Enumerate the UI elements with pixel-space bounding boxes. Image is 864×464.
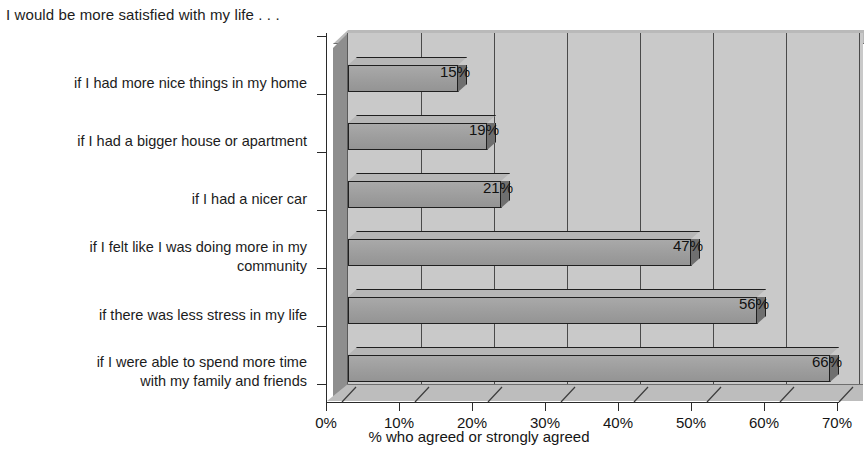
gridline: [640, 33, 641, 385]
x-axis-tick: [618, 403, 619, 411]
category-label: if I had a bigger house or apartment: [7, 132, 307, 151]
bar: [348, 239, 691, 266]
plot-area: [318, 30, 864, 402]
x-axis-title: % who agreed or strongly agreed: [0, 428, 864, 445]
bar-top-face: [348, 347, 839, 355]
y-axis-tick: [317, 152, 326, 153]
gridline: [494, 33, 495, 385]
category-label: if I were able to spend more time with m…: [7, 353, 307, 391]
x-axis-tick: [399, 403, 400, 411]
bar-value-label: 21%: [483, 179, 513, 196]
category-label: if I had more nice things in my home: [7, 74, 307, 93]
chart-title: I would be more satisfied with my life .…: [6, 6, 280, 23]
plot-left-wall: [333, 33, 348, 397]
bar: [348, 355, 830, 382]
x-axis: 0% 10% 20% 30% 40% 50% 60% 70%: [326, 402, 839, 403]
bar-chart: I would be more satisfied with my life .…: [0, 0, 864, 464]
category-label: if there was less stress in my life: [7, 306, 307, 325]
bar-top-face: [348, 231, 700, 239]
category-label: if I had a nicer car: [7, 190, 307, 209]
category-axis-labels: if I had more nice things in my home if …: [0, 33, 307, 398]
bar-top-face: [348, 289, 766, 297]
gridline: [713, 33, 714, 385]
x-axis-tick: [837, 403, 838, 411]
bar-value-label: 19%: [469, 121, 499, 138]
category-label: if I felt like I was doing more in my co…: [7, 238, 307, 276]
x-axis-tick: [545, 403, 546, 411]
bar-value-label: 47%: [673, 237, 703, 254]
x-axis-tick: [691, 403, 692, 411]
y-axis-tick: [317, 210, 326, 211]
gridline: [859, 33, 860, 385]
bar: [348, 181, 501, 208]
bar: [348, 123, 487, 150]
bar-value-label: 66%: [812, 353, 842, 370]
bar-value-label: 56%: [739, 295, 769, 312]
plot-back-wall: [347, 33, 863, 385]
x-axis-tick: [326, 403, 327, 411]
y-axis-tick: [317, 384, 326, 385]
x-axis-tick: [472, 403, 473, 411]
y-axis-tick: [317, 94, 326, 95]
gridline: [786, 33, 787, 385]
y-axis: [326, 33, 327, 403]
x-axis-tick: [764, 403, 765, 411]
bar: [348, 297, 757, 324]
y-axis-tick: [317, 268, 326, 269]
x-axis-title-text: % who agreed or strongly agreed: [369, 428, 590, 445]
y-axis-tick: [317, 36, 326, 37]
y-axis-tick: [317, 326, 326, 327]
gridline: [567, 33, 568, 385]
bar-value-label: 15%: [440, 63, 470, 80]
